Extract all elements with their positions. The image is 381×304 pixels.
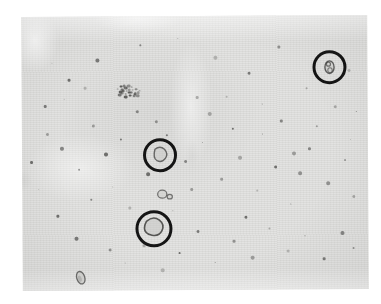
annotation-circle-middle[interactable]: [143, 138, 177, 172]
annotation-circle-top-right[interactable]: [312, 50, 346, 84]
cell-bottom-left: [75, 270, 87, 285]
cell-budding-yeast: [158, 190, 173, 199]
figure-root: [0, 0, 381, 304]
micrograph-field: [21, 15, 369, 291]
annotation-circle-lower[interactable]: [135, 210, 172, 247]
